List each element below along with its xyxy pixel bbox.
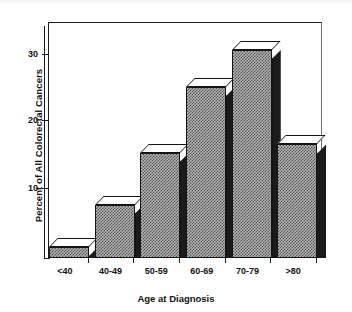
bar-front-face	[95, 205, 135, 258]
y-axis-title: Percent of All Colorectal Cancers	[33, 46, 44, 246]
y-tick-label-20: 20	[14, 115, 38, 125]
bar-60-69	[186, 78, 226, 258]
bar-chart: Percent of All Colorectal Cancers 30 20 …	[0, 0, 352, 312]
bar-side-face	[317, 144, 326, 258]
scan-artifact-band	[0, 0, 352, 5]
bar-top-face	[277, 135, 326, 144]
x-tick-4	[270, 258, 271, 263]
bar-top-face	[186, 78, 235, 87]
bar-front-face	[49, 247, 89, 258]
bar-front-face	[277, 144, 317, 258]
bar-top-face	[140, 144, 189, 153]
y-tick-label-10: 10	[14, 183, 38, 193]
bar-80	[277, 135, 317, 258]
x-tick-0	[88, 258, 89, 263]
bar-front-face	[140, 153, 180, 259]
bar-top-face	[232, 41, 281, 50]
bar-40	[49, 238, 89, 258]
x-tick-1	[133, 258, 134, 263]
x-tick-2	[179, 258, 180, 263]
bar-40-49	[95, 196, 135, 258]
x-tick-5	[316, 258, 317, 263]
bar-70-79	[232, 41, 272, 258]
x-axis-label-0: <40	[42, 266, 88, 276]
x-tick-3	[225, 258, 226, 263]
bar-50-59	[140, 144, 180, 259]
bar-front-face	[232, 50, 272, 258]
bar-series	[48, 22, 322, 258]
bar-top-face	[49, 238, 98, 247]
axis-depth-line	[44, 26, 45, 258]
bar-front-face	[186, 87, 226, 258]
x-axis-title: Age at Diagnosis	[0, 293, 352, 304]
axis-depth-base	[44, 258, 50, 259]
y-tick-label-30: 30	[14, 49, 38, 59]
x-axis-label-2: 50-59	[133, 266, 179, 276]
bar-top-face	[95, 196, 144, 205]
x-axis-label-4: 70-79	[225, 266, 271, 276]
x-axis-label-5: >80	[270, 266, 316, 276]
x-axis-label-1: 40-49	[88, 266, 134, 276]
x-axis-label-3: 60-69	[179, 266, 225, 276]
